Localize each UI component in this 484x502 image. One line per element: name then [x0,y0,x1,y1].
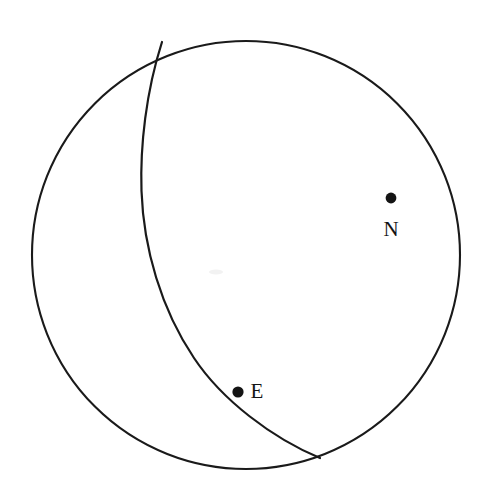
stereonet-figure: N E [0,0,484,502]
point-n-label: N [383,217,398,241]
point-e-dot [232,386,243,397]
primitive-circle [32,41,460,469]
point-n-dot [386,193,397,204]
paper-smudge [209,270,223,275]
great-circle-arc [141,42,320,458]
point-e-label: E [251,379,264,403]
figure-canvas: N E [0,0,484,502]
